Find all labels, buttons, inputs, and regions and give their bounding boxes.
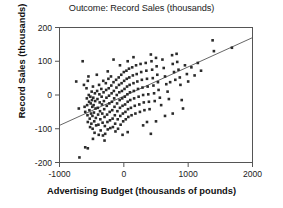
- data-point: [88, 109, 91, 112]
- data-point: [105, 105, 108, 108]
- data-point: [121, 97, 124, 100]
- data-point: [81, 60, 84, 63]
- data-point: [155, 65, 158, 68]
- data-point: [148, 100, 151, 103]
- data-point: [157, 89, 160, 92]
- data-point: [111, 100, 114, 103]
- data-point: [89, 95, 92, 98]
- data-point: [157, 81, 160, 84]
- data-point: [153, 92, 156, 95]
- x-axis-label: Advertising Budget (thousands of pounds): [0, 186, 283, 196]
- data-point: [147, 93, 150, 96]
- data-point: [106, 70, 109, 73]
- y-tick-label: 200: [38, 23, 53, 33]
- data-point: [129, 91, 132, 94]
- data-point: [105, 82, 108, 85]
- data-point: [108, 102, 111, 105]
- data-point: [103, 100, 106, 103]
- data-point: [106, 113, 109, 116]
- data-point: [106, 121, 109, 124]
- data-point: [113, 106, 116, 109]
- data-point: [118, 84, 121, 87]
- data-point: [187, 80, 190, 83]
- data-point: [112, 126, 115, 129]
- y-axis-ticks: -200-1000100200: [35, 23, 60, 168]
- data-point: [173, 71, 176, 74]
- x-tick-label: 2000: [243, 169, 262, 179]
- data-point: [120, 82, 123, 85]
- data-point: [101, 121, 104, 124]
- x-tick-label: 0: [121, 169, 126, 179]
- data-point: [142, 94, 145, 97]
- data-point: [107, 78, 110, 81]
- data-point: [114, 122, 117, 125]
- data-point: [96, 90, 99, 93]
- data-point: [126, 131, 129, 134]
- data-point: [101, 112, 104, 115]
- y-tick-label: 0: [47, 90, 52, 100]
- y-axis-label: Record Sales (thousands): [17, 0, 27, 131]
- data-point: [133, 97, 136, 100]
- data-point: [87, 147, 90, 150]
- data-point: [75, 80, 78, 83]
- data-point: [124, 111, 127, 114]
- data-point: [131, 66, 134, 69]
- data-point: [119, 64, 122, 67]
- data-point: [155, 120, 158, 123]
- data-point: [83, 84, 86, 87]
- data-point: [162, 67, 165, 70]
- data-point: [91, 127, 94, 130]
- data-point: [139, 63, 142, 66]
- data-point: [171, 112, 174, 115]
- data-point: [151, 77, 154, 80]
- data-point: [111, 117, 114, 120]
- data-point: [125, 69, 128, 72]
- data-point: [161, 58, 164, 61]
- data-point: [102, 80, 105, 83]
- data-point: [106, 128, 109, 131]
- data-point: [151, 68, 154, 71]
- data-point: [104, 125, 107, 128]
- data-point: [126, 100, 129, 103]
- data-point: [122, 120, 125, 123]
- data-point: [100, 88, 103, 91]
- data-point: [123, 80, 126, 83]
- data-point: [177, 68, 180, 71]
- data-point: [101, 103, 104, 106]
- data-point: [130, 107, 133, 110]
- data-point: [123, 88, 126, 91]
- data-point: [112, 58, 115, 61]
- data-point: [84, 146, 87, 149]
- data-point: [166, 90, 169, 93]
- data-point: [86, 104, 89, 107]
- data-point: [123, 71, 126, 74]
- data-point: [159, 96, 162, 99]
- data-point: [197, 62, 200, 65]
- data-point: [116, 102, 119, 105]
- data-point: [115, 79, 118, 82]
- data-point: [141, 86, 144, 89]
- y-tick-label: -100: [35, 124, 52, 134]
- data-point: [129, 99, 132, 102]
- data-point: [96, 98, 99, 101]
- data-point: [184, 64, 187, 67]
- data-point: [132, 74, 135, 77]
- data-point: [231, 46, 234, 49]
- data-point: [148, 108, 151, 111]
- data-point: [98, 93, 101, 96]
- data-point: [169, 81, 172, 84]
- x-tick-label: 1000: [179, 169, 198, 179]
- y-tick-label: -200: [35, 158, 52, 168]
- data-point: [122, 112, 125, 115]
- data-point: [98, 101, 101, 104]
- data-point: [99, 129, 102, 132]
- data-point: [84, 111, 87, 114]
- data-point: [95, 117, 98, 120]
- scatter-plot-figure: Outcome: Record Sales (thousands) -10000…: [0, 0, 283, 208]
- data-point: [155, 57, 158, 60]
- data-point: [94, 100, 97, 103]
- data-point: [150, 60, 153, 63]
- data-point: [119, 107, 122, 110]
- data-point: [121, 90, 124, 93]
- data-point: [144, 62, 147, 65]
